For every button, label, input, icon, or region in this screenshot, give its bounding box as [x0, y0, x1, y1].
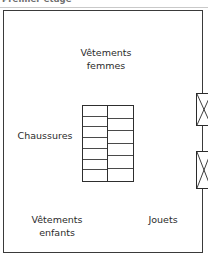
shelving-column-left	[83, 106, 108, 181]
shelving-column-right	[108, 106, 133, 181]
central-shelving-unit	[82, 105, 134, 182]
shelf-cell	[83, 106, 107, 117]
shelf-cell	[83, 127, 107, 138]
cross-marker-icon	[197, 152, 208, 188]
page-header-strip: Premier étage	[0, 0, 208, 8]
shelf-cell	[108, 106, 133, 119]
floor-plan-screenshot: Premier étage Vêtements femmes Chaussure…	[0, 0, 208, 255]
zone-label-chaussures: Chaussures	[10, 130, 80, 143]
shelf-cell	[83, 149, 107, 160]
fitting-room-upper	[196, 93, 208, 126]
fitting-room-lower	[196, 151, 208, 189]
shelf-cell	[83, 117, 107, 128]
shelf-cell	[83, 138, 107, 149]
zone-label-vetements-femmes: Vêtements femmes	[60, 47, 152, 72]
header-divider	[0, 7, 208, 8]
shelf-cell	[108, 119, 133, 132]
cross-marker-icon	[197, 94, 208, 125]
shelf-cell	[83, 170, 107, 181]
page-title: Premier étage	[2, 0, 72, 4]
shelf-cell	[108, 169, 133, 182]
shelf-cell	[83, 160, 107, 171]
shelf-cell	[108, 131, 133, 144]
zone-label-jouets: Jouets	[130, 214, 196, 227]
shelf-cell	[108, 156, 133, 169]
zone-label-vetements-enfants: Vêtements enfants	[12, 214, 102, 239]
shelf-cell	[108, 144, 133, 157]
store-floor-plan: Vêtements femmes Chaussures Vêtements en…	[3, 10, 203, 253]
